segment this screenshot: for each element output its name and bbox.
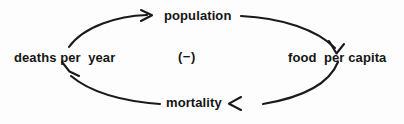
node-label-deaths-per-year: deaths per year (14, 51, 115, 64)
causal-loop-diagram: population food per capita mortality dea… (0, 0, 404, 124)
loop-polarity-label: (−) (178, 50, 196, 63)
link-population-to-food-curve (241, 16, 335, 48)
node-label-population: population (164, 9, 231, 22)
node-label-mortality: mortality (166, 96, 222, 109)
link-deaths-to-population-curve (69, 15, 147, 47)
link-food-to-mortality-curve (263, 62, 338, 104)
node-label-food-per-capita: food per capita (288, 51, 386, 64)
link-mortality-to-deaths-curve (71, 76, 160, 104)
arrowhead-into-mortality-icon (229, 97, 241, 110)
